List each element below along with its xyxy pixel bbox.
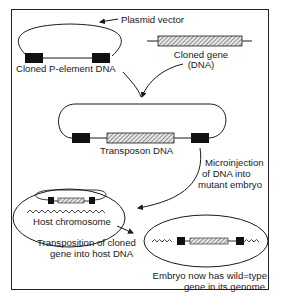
label-transposition-1: Transposition of cloned bbox=[37, 237, 136, 248]
plasmid-vector-pointer bbox=[100, 19, 118, 22]
label-embryo-1: Embryo now has wild=type bbox=[140, 270, 267, 281]
transposon-gene bbox=[107, 133, 174, 143]
transposon-block-left bbox=[72, 133, 90, 143]
label-embryo-2: gene in its genome bbox=[140, 281, 265, 292]
label-microinjection-1: Microinjection bbox=[205, 157, 264, 168]
p-element-block-right bbox=[92, 53, 110, 63]
label-host-chromosome: Host chromosome bbox=[33, 216, 111, 227]
label-cloned-gene-dna: (DNA) bbox=[170, 59, 232, 70]
label-microinjection-3: mutant embryo bbox=[198, 179, 262, 190]
label-microinjection-2: of DNA into bbox=[202, 168, 251, 179]
transposon-loop bbox=[59, 104, 226, 143]
transposon-block-right bbox=[191, 133, 209, 143]
cloned-gene bbox=[147, 36, 252, 46]
transposition-arrow bbox=[117, 226, 133, 233]
microinjection-arrow bbox=[138, 148, 201, 208]
p-element-block-left bbox=[25, 53, 43, 63]
arrow-from-plasmid bbox=[123, 72, 141, 97]
label-transposition-2: gene into host DNA bbox=[50, 248, 133, 259]
label-transposon: Transposon DNA bbox=[100, 145, 173, 156]
plasmid-vector bbox=[18, 24, 121, 63]
host-chromosome-wavy bbox=[27, 210, 105, 213]
label-cloned-p-element: Cloned P-element DNA bbox=[16, 63, 116, 74]
label-plasmid-vector: Plasmid vector bbox=[121, 14, 184, 25]
embryo-cell bbox=[144, 215, 268, 267]
